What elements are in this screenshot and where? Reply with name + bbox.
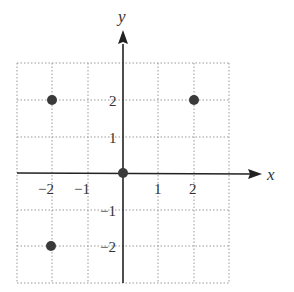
svg-text:2: 2 [189, 181, 197, 197]
y-arrow-icon [118, 30, 128, 44]
svg-text:1: 1 [109, 130, 117, 146]
x-axis: x [17, 165, 275, 184]
x-axis-label: x [266, 165, 275, 184]
svg-text:1: 1 [154, 181, 162, 197]
point-2-2 [189, 95, 199, 105]
point-neg2-2 [47, 95, 57, 105]
x-arrow-icon [248, 169, 262, 179]
svg-text:−2: −2 [100, 239, 116, 255]
svg-text:−1: −1 [74, 181, 90, 197]
x-tick-labels: −2 −1 1 2 [38, 181, 197, 197]
point-neg2-neg2 [46, 241, 56, 251]
svg-text:−1: −1 [100, 203, 116, 219]
y-axis: y [116, 7, 128, 283]
svg-text:2: 2 [109, 93, 117, 109]
y-axis-label: y [116, 7, 126, 26]
svg-text:−2: −2 [38, 181, 54, 197]
point-origin [118, 168, 128, 178]
coordinate-plane: x y −2 −1 1 2 2 1 −1 −2 [0, 0, 294, 292]
